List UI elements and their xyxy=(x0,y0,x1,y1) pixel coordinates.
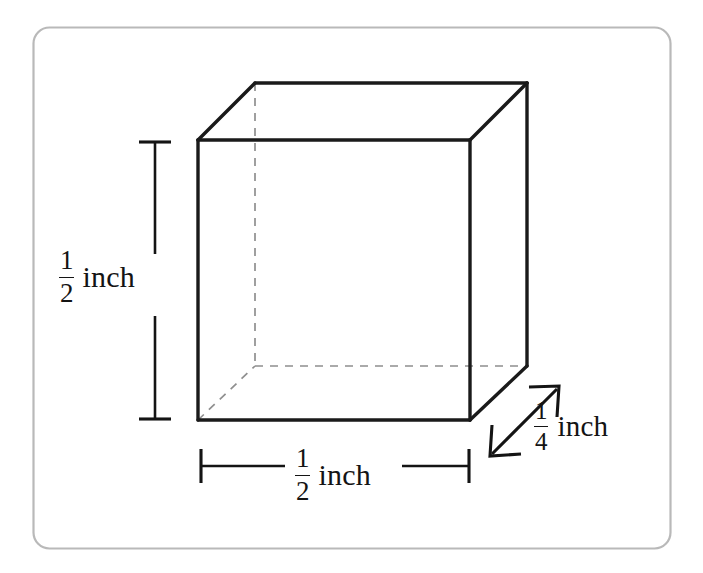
height-fraction-denominator: 2 xyxy=(58,279,76,308)
width-fraction-numerator: 1 xyxy=(294,445,312,474)
depth-dimension-label: 1 4 inch xyxy=(533,398,608,454)
depth-fraction-bar xyxy=(534,426,548,427)
depth-fraction: 1 4 xyxy=(533,398,550,454)
depth-unit-label: inch xyxy=(558,412,609,441)
depth-fraction-numerator: 1 xyxy=(533,398,550,425)
width-dimension-label: 1 2 inch xyxy=(294,445,371,505)
height-fraction-numerator: 1 xyxy=(58,247,76,276)
width-fraction-denominator: 2 xyxy=(294,477,312,506)
width-unit-label: inch xyxy=(319,460,371,490)
depth-fraction-denominator: 4 xyxy=(533,428,550,455)
height-unit-label: inch xyxy=(83,262,135,292)
width-fraction: 1 2 xyxy=(294,445,312,505)
figure-root: 1 2 inch 1 2 inch 1 4 inch xyxy=(0,0,703,573)
height-fraction: 1 2 xyxy=(58,247,76,307)
height-dimension-label: 1 2 inch xyxy=(58,247,135,307)
